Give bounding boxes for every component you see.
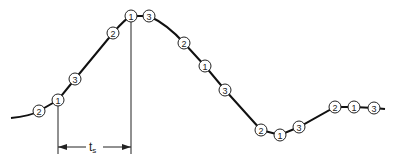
numbered-node: 3 bbox=[293, 121, 305, 133]
numbered-node: 1 bbox=[52, 94, 64, 106]
node-label: 3 bbox=[296, 123, 301, 133]
arrowhead-left-icon bbox=[58, 144, 67, 150]
node-label: 2 bbox=[110, 29, 115, 39]
waveform-diagram: ts 213213213213213 bbox=[0, 0, 397, 160]
numbered-node: 3 bbox=[219, 84, 231, 96]
node-label: 3 bbox=[371, 104, 376, 114]
numbered-node: 1 bbox=[125, 10, 137, 22]
numbered-node: 3 bbox=[69, 73, 81, 85]
node-label: 1 bbox=[202, 62, 207, 72]
waveform-curve bbox=[11, 16, 385, 135]
node-label: 2 bbox=[258, 126, 263, 136]
node-label: 1 bbox=[277, 131, 282, 141]
node-label: 3 bbox=[72, 75, 77, 85]
interval-label: ts bbox=[89, 140, 96, 155]
numbered-node: 2 bbox=[255, 124, 267, 136]
numbered-node: 2 bbox=[178, 37, 190, 49]
numbered-node: 3 bbox=[143, 10, 155, 22]
node-label: 1 bbox=[55, 96, 60, 106]
node-label: 2 bbox=[332, 103, 337, 113]
numbered-node: 2 bbox=[33, 105, 45, 117]
numbered-node: 1 bbox=[274, 129, 286, 141]
arrowhead-right-icon bbox=[122, 144, 131, 150]
numbered-node: 1 bbox=[348, 101, 360, 113]
node-label: 1 bbox=[351, 103, 356, 113]
node-label: 3 bbox=[146, 12, 151, 22]
node-label: 2 bbox=[36, 107, 41, 117]
numbered-node: 3 bbox=[368, 102, 380, 114]
numbered-node: 2 bbox=[107, 27, 119, 39]
numbered-node: 1 bbox=[199, 60, 211, 72]
node-label: 1 bbox=[128, 12, 133, 22]
node-label: 3 bbox=[222, 86, 227, 96]
node-label: 2 bbox=[181, 39, 186, 49]
numbered-node: 2 bbox=[329, 101, 341, 113]
